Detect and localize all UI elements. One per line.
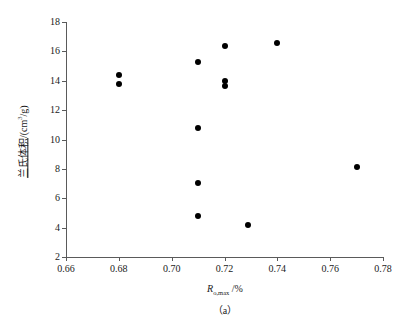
x-tick-mark — [330, 257, 331, 261]
figure-caption: （a） — [66, 302, 384, 317]
y-tick-label: 8 — [55, 164, 60, 174]
y-axis-unit-exponent: 3 — [16, 116, 23, 119]
x-tick-mark — [383, 257, 384, 261]
y-tick-label: 16 — [50, 46, 60, 56]
x-axis-title: Ro,max /% — [66, 283, 384, 296]
x-axis-unit: % — [235, 283, 243, 294]
data-point — [195, 125, 201, 131]
x-tick-mark — [225, 257, 226, 261]
y-tick-mark — [62, 81, 66, 82]
x-tick-label: 0.74 — [269, 264, 287, 274]
y-tick-mark — [62, 169, 66, 170]
y-axis-title-sep: /( — [18, 132, 29, 138]
plot-area: 24681012141618 0.660.680.700.720.740.760… — [66, 22, 383, 257]
x-tick-mark — [277, 257, 278, 261]
y-tick-label: 18 — [50, 17, 60, 27]
x-tick-mark — [66, 257, 67, 261]
data-point — [195, 180, 201, 186]
y-tick-mark — [62, 140, 66, 141]
data-point — [116, 81, 122, 87]
y-tick-label: 10 — [50, 135, 60, 145]
x-tick-label: 0.68 — [110, 264, 128, 274]
y-tick-label: 2 — [55, 252, 60, 262]
y-tick-label: 4 — [55, 223, 60, 233]
data-point — [245, 222, 251, 228]
x-tick-label: 0.72 — [216, 264, 234, 274]
data-point — [274, 40, 280, 46]
y-tick-label: 12 — [50, 105, 60, 115]
x-tick-mark — [172, 257, 173, 261]
x-tick-label: 0.76 — [321, 264, 339, 274]
scatter-chart-figure: 兰氏体积/(cm3/g) 24681012141618 0.660.680.70… — [0, 0, 407, 325]
y-axis-title: 兰氏体积/(cm3/g) — [12, 70, 32, 210]
y-tick-label: 6 — [55, 193, 60, 203]
data-point — [354, 164, 360, 170]
y-axis-title-cjk: 兰氏体积 — [18, 138, 29, 178]
x-tick-label: 0.66 — [57, 264, 75, 274]
y-axis-unit-base: cm — [18, 120, 29, 132]
y-tick-label: 14 — [50, 76, 60, 86]
x-tick-label: 0.78 — [374, 264, 392, 274]
data-point — [195, 213, 201, 219]
data-point — [116, 72, 122, 78]
x-axis-subscript: o,max — [213, 289, 229, 296]
y-axis-unit-tail: /g) — [18, 105, 29, 116]
data-point — [222, 83, 228, 89]
x-tick-label: 0.70 — [163, 264, 181, 274]
y-tick-mark — [62, 228, 66, 229]
data-point — [195, 59, 201, 65]
x-tick-mark — [119, 257, 120, 261]
y-tick-mark — [62, 110, 66, 111]
data-point — [222, 43, 228, 49]
y-tick-mark — [62, 198, 66, 199]
y-tick-mark — [62, 22, 66, 23]
y-tick-mark — [62, 51, 66, 52]
